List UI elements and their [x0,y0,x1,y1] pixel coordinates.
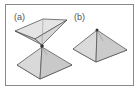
panel-b-pyramid [73,30,127,62]
pyramids-diagram [0,0,139,90]
panel-b-apex-vertex [96,29,99,32]
panel-a-upper-pyramid [15,19,67,45]
panel-a-lower-pyramid [17,47,72,79]
panel-a-shared-vertex [40,44,44,48]
